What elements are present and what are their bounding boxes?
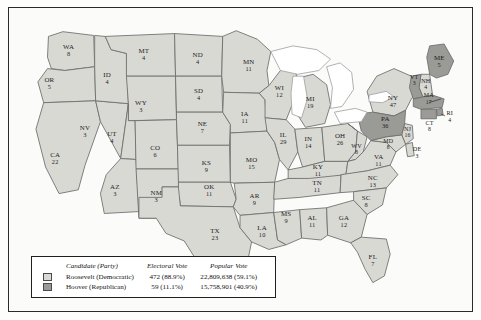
label-IL: IL29	[280, 131, 287, 145]
legend: Candidate (Party) Electoral Vote Popular…	[31, 256, 276, 298]
legend-row-hoover: Hoover (Republican) 59 (11.1%) 15,758,90…	[39, 282, 266, 292]
legend-row-roosevelt: Roosevelt (Democratic) 472 (88.9%) 22,80…	[39, 272, 266, 282]
label-PA: PA36	[381, 115, 390, 129]
roosevelt-swatch	[43, 273, 52, 281]
state-OR[interactable]	[38, 67, 96, 103]
label-LA: LA10	[257, 224, 267, 238]
roosevelt-swatch-cell	[39, 272, 62, 282]
map-frame: WA8 OR5 CA22 NV3 ID4 MT4 WY3 UT4 AZ3 CO6…	[8, 7, 473, 312]
lake-huron-erie	[327, 63, 354, 108]
state-CT[interactable]	[421, 109, 436, 118]
label-NJ: NJ16	[404, 126, 412, 138]
roosevelt-electoral: 472 (88.9%)	[143, 272, 196, 282]
state-CA[interactable]	[36, 101, 100, 194]
hoover-candidate: Hoover (Republican)	[62, 282, 143, 292]
legend-popular-header: Popular Vote	[196, 262, 266, 272]
legend-header-row: Candidate (Party) Electoral Vote Popular…	[39, 262, 266, 272]
label-IA: IA11	[241, 110, 249, 124]
roosevelt-candidate: Roosevelt (Democratic)	[62, 272, 143, 282]
hoover-swatch-cell	[39, 282, 62, 292]
label-CT: CT8	[426, 120, 434, 132]
electoral-map-figure: WA8 OR5 CA22 NV3 ID4 MT4 WY3 UT4 AZ3 CO6…	[0, 0, 481, 320]
legend-table: Candidate (Party) Electoral Vote Popular…	[39, 262, 266, 292]
lake-superior	[271, 46, 331, 74]
state-WY[interactable]	[126, 76, 176, 121]
legend-swatch-header	[39, 262, 62, 272]
label-IN: IN14	[305, 135, 313, 149]
hoover-popular: 15,758,901 (40.9%)	[196, 282, 266, 292]
state-WA[interactable]	[48, 32, 95, 71]
legend-candidate-header: Candidate (Party)	[62, 262, 143, 272]
legend-electoral-header: Electoral Vote	[143, 262, 196, 272]
state-AZ[interactable]	[100, 159, 139, 214]
hoover-swatch	[43, 283, 52, 291]
label-RI: RI4	[447, 110, 454, 122]
roosevelt-popular: 22,809,638 (59.1%)	[196, 272, 266, 282]
label-TX: TX23	[210, 227, 220, 241]
hoover-electoral: 59 (11.1%)	[143, 282, 196, 292]
